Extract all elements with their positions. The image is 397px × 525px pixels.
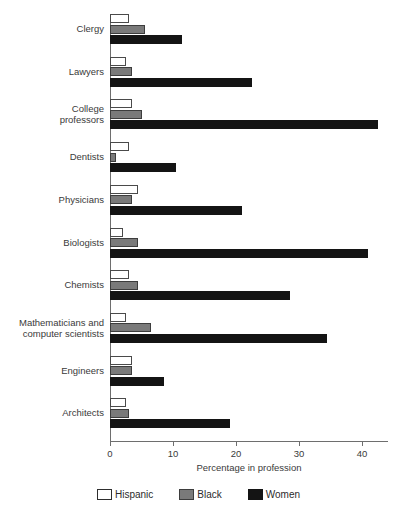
bar-women bbox=[110, 249, 368, 258]
x-axis-tick-label: 20 bbox=[231, 448, 242, 459]
x-axis-tick-label: 10 bbox=[168, 448, 179, 459]
bar-women bbox=[110, 163, 176, 172]
bar-hispanic bbox=[110, 398, 126, 407]
bar-black bbox=[110, 409, 129, 418]
bar-hispanic bbox=[110, 57, 126, 66]
bar-black bbox=[110, 281, 138, 290]
legend-label: Black bbox=[197, 489, 221, 500]
category-label: College professors bbox=[0, 103, 104, 125]
bar-hispanic bbox=[110, 185, 138, 194]
x-axis-tick bbox=[299, 441, 300, 446]
bar-group: Physicians bbox=[0, 185, 397, 228]
chart-legend: HispanicBlackWomen bbox=[0, 489, 397, 500]
bar-women bbox=[110, 35, 182, 44]
legend-swatch-icon bbox=[248, 489, 263, 500]
bar-women bbox=[110, 334, 327, 343]
bar-women bbox=[110, 377, 164, 386]
category-label: Lawyers bbox=[0, 66, 104, 77]
legend-item: Women bbox=[248, 489, 300, 500]
category-label: Physicians bbox=[0, 194, 104, 205]
bar-hispanic bbox=[110, 14, 129, 23]
category-label: Architects bbox=[0, 407, 104, 418]
bar-group: Mathematicians and computer scientists bbox=[0, 313, 397, 356]
bar-women bbox=[110, 120, 378, 129]
bar-women bbox=[110, 78, 252, 87]
x-axis-tick-label: 40 bbox=[357, 448, 368, 459]
x-axis-tick bbox=[110, 441, 111, 446]
bar-hispanic bbox=[110, 313, 126, 322]
legend-swatch-icon bbox=[97, 489, 112, 500]
x-axis-tick bbox=[173, 441, 174, 446]
bar-black bbox=[110, 153, 116, 162]
bar-black bbox=[110, 110, 142, 119]
bar-women bbox=[110, 419, 230, 428]
bar-group: Clergy bbox=[0, 14, 397, 57]
bar-hispanic bbox=[110, 270, 129, 279]
x-axis-tick bbox=[236, 441, 237, 446]
bar-hispanic bbox=[110, 99, 132, 108]
legend-label: Hispanic bbox=[115, 489, 153, 500]
bar-black bbox=[110, 238, 138, 247]
bar-hispanic bbox=[110, 356, 132, 365]
category-label: Mathematicians and computer scientists bbox=[0, 317, 104, 339]
bar-group: Chemists bbox=[0, 270, 397, 313]
bar-group: Dentists bbox=[0, 142, 397, 185]
legend-item: Black bbox=[179, 489, 221, 500]
x-axis-tick-label: 30 bbox=[294, 448, 305, 459]
x-axis-tick-label: 0 bbox=[107, 448, 112, 459]
bar-women bbox=[110, 291, 290, 300]
x-axis-title: Percentage in profession bbox=[110, 462, 388, 473]
bar-black bbox=[110, 366, 132, 375]
bar-black bbox=[110, 323, 151, 332]
bar-women bbox=[110, 206, 242, 215]
category-label: Engineers bbox=[0, 365, 104, 376]
category-label: Clergy bbox=[0, 23, 104, 34]
legend-item: Hispanic bbox=[97, 489, 153, 500]
bar-group: Biologists bbox=[0, 228, 397, 271]
bar-group: Architects bbox=[0, 398, 397, 441]
category-label: Chemists bbox=[0, 279, 104, 290]
bar-group: Engineers bbox=[0, 356, 397, 399]
category-label: Dentists bbox=[0, 151, 104, 162]
bar-hispanic bbox=[110, 142, 129, 151]
x-axis-tick bbox=[362, 441, 363, 446]
bar-group: College professors bbox=[0, 99, 397, 142]
x-axis-line bbox=[110, 441, 388, 442]
legend-swatch-icon bbox=[179, 489, 194, 500]
legend-label: Women bbox=[266, 489, 300, 500]
bar-group: Lawyers bbox=[0, 57, 397, 100]
bar-black bbox=[110, 195, 132, 204]
bar-hispanic bbox=[110, 228, 123, 237]
bar-black bbox=[110, 67, 132, 76]
bar-black bbox=[110, 25, 145, 34]
category-label: Biologists bbox=[0, 237, 104, 248]
bar-chart-figure: 010203040 ClergyLawyersCollege professor… bbox=[0, 0, 397, 525]
